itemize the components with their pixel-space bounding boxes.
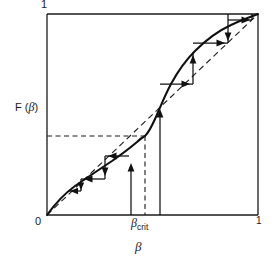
arrow-right-icon [217,40,226,47]
arrow-down-icon [102,168,109,177]
origin-label: 0 [35,216,41,227]
identity-line [47,14,258,215]
y-axis-title-suffix: ) [34,101,38,113]
y-axis-max-label: 1 [41,0,47,10]
y-axis-title: F (β) [15,101,38,113]
beta-crit-label: βcrit [131,217,148,229]
y-axis-title-prefix: F ( [15,101,28,113]
cobweb-upper-branch [157,14,252,215]
arrow-up-icon [128,163,135,172]
arrow-down-icon [78,183,84,191]
arrow-left-icon [108,153,117,160]
x-axis-title: β [135,240,141,253]
beta-crit-subscript: crit [137,222,148,232]
x-axis-max-label: 1 [256,216,262,226]
figure-panel: 1 0 1 F (β) β βcrit [0,0,277,263]
arrow-right-icon [182,81,191,88]
